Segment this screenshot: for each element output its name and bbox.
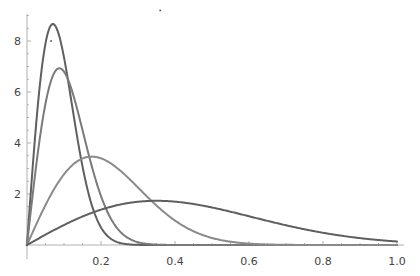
y-tick-label: 8 — [14, 35, 21, 48]
curve-1 — [27, 24, 397, 245]
annotation-dot — [159, 10, 161, 12]
plot-curves — [27, 24, 397, 245]
annotation-dot — [50, 40, 52, 42]
y-tick-label: 2 — [14, 188, 21, 201]
curve-2 — [27, 68, 397, 245]
x-tick-label: 0.6 — [240, 255, 258, 268]
y-tick-label: 4 — [14, 137, 21, 150]
y-tick-label: 6 — [14, 86, 21, 99]
x-tick-label: 0.8 — [314, 255, 332, 268]
axes: 0.20.40.60.81.0 2468 — [14, 14, 406, 268]
x-tick-label: 0.4 — [166, 255, 184, 268]
annotations — [50, 10, 161, 42]
line-chart: 0.20.40.60.81.0 2468 — [0, 0, 420, 276]
x-tick-label: 1.0 — [388, 255, 406, 268]
x-tick-label: 0.2 — [92, 255, 110, 268]
y-axis-ticks: 2468 — [14, 16, 31, 233]
